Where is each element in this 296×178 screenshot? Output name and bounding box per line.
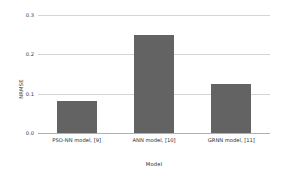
gridline [38,15,270,16]
bar [57,101,97,133]
y-axis-title: NRMSE [14,0,28,178]
bar [211,84,251,133]
y-axis-tick-label: 0.2 [26,51,34,57]
plot-area: 0.00.10.20.3 [38,15,270,133]
x-axis-tick-label: PSO-NN model, [9] [52,137,101,143]
x-axis-tick-label: ANN model, [10] [132,137,175,143]
x-axis-tick-label: GRNN model, [11] [208,137,255,143]
y-axis-tick-label: 0.1 [26,91,34,97]
y-axis-tick-label: 0.0 [26,130,34,136]
bar [134,35,174,133]
gridline [38,133,270,134]
y-axis-tick-label: 0.3 [26,12,34,18]
x-axis-title: Model [38,161,270,167]
bar-chart: NRMSE 0.00.10.20.3 Model PSO-NN model, [… [0,0,296,178]
